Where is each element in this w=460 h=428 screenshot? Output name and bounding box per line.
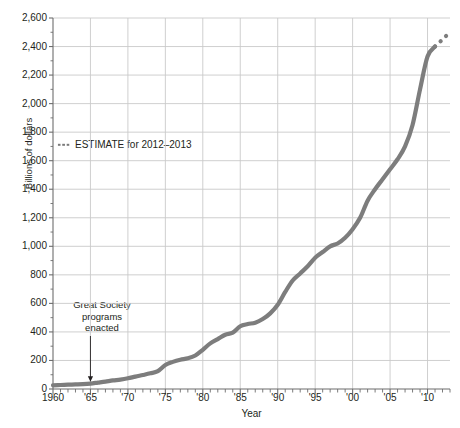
x-axis-tick-label: '05 bbox=[384, 393, 397, 403]
data-line-actual bbox=[53, 47, 435, 386]
plot-area bbox=[0, 0, 460, 428]
data-line-estimate bbox=[435, 32, 450, 46]
x-axis-tick-label: '75 bbox=[159, 393, 172, 403]
annotation-arrow-head bbox=[88, 376, 93, 382]
x-axis-tick-label: 1960 bbox=[42, 393, 64, 403]
x-axis-tick-label: '70 bbox=[121, 393, 134, 403]
x-axis-tick-label: '95 bbox=[309, 393, 322, 403]
x-axis-tick-label: '90 bbox=[271, 393, 284, 403]
x-axis-tick-label: '65 bbox=[84, 393, 97, 403]
x-axis-tick-label: '10 bbox=[421, 393, 434, 403]
x-axis-tick-label: '00 bbox=[346, 393, 359, 403]
chart-container: Billions of dollars 02004006008001,0001,… bbox=[0, 0, 460, 428]
x-axis-tick-label: '80 bbox=[196, 393, 209, 403]
x-axis-tick-label: '85 bbox=[234, 393, 247, 403]
